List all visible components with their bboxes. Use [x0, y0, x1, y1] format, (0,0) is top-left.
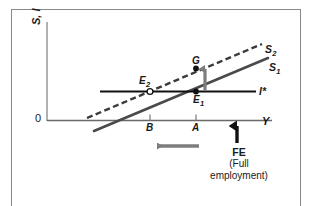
point-label-e2-text: E [139, 75, 146, 86]
point-label-e1-subscript: 1 [200, 99, 204, 108]
point-label-e2: E2 [139, 76, 150, 86]
point-label-e1-text: E [193, 94, 200, 105]
full-employment-sublabel-line2: employment) [199, 170, 279, 182]
full-employment-annotation: FE (Full employment) [199, 146, 279, 181]
figure-container: S, I 0 Y S2 S1 I* E2 E1 G B A FE (Full e… [0, 0, 321, 206]
curve-label-s2-text: S [265, 43, 272, 55]
y-axis-label: S, I [31, 0, 42, 25]
point-label-e1: E1 [193, 95, 204, 105]
point-g-marker [193, 66, 199, 72]
point-label-e2-subscript: 2 [146, 80, 150, 89]
full-employment-label: FE [199, 146, 279, 158]
curve-s2 [87, 44, 262, 118]
curve-label-s2: S2 [265, 44, 276, 55]
origin-label: 0 [35, 113, 41, 124]
curve-label-s1-text: S [269, 61, 276, 73]
curve-label-i-star: I* [259, 86, 266, 97]
point-e2-marker [147, 89, 153, 95]
tick-label-a: A [192, 123, 199, 133]
curve-label-s2-subscript: 2 [272, 49, 276, 58]
x-axis-label: Y [262, 116, 269, 127]
curve-label-s1-subscript: 1 [276, 67, 280, 76]
point-label-g: G [192, 56, 200, 66]
full-employment-sublabel-line1: (Full [199, 158, 279, 170]
tick-label-b: B [146, 123, 153, 133]
curve-label-s1: S1 [269, 62, 280, 73]
